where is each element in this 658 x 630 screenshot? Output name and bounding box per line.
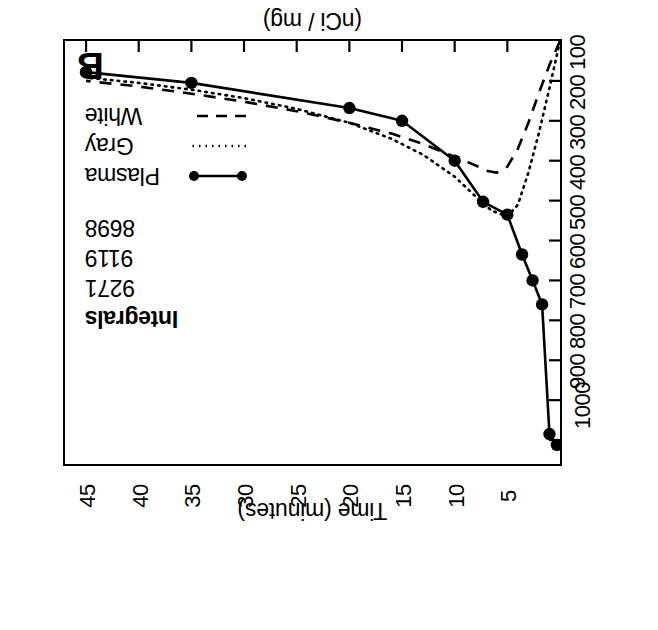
x-tick-label: 25 bbox=[286, 484, 312, 507]
x-tick-label: 5 bbox=[496, 490, 522, 502]
x-tick-label: 15 bbox=[391, 484, 417, 507]
legend-label-plasma: Plasma bbox=[85, 163, 177, 190]
y-tick-label: 800 bbox=[565, 314, 591, 349]
y-tick-label: 500 bbox=[565, 194, 591, 229]
plot-frame: B Integrals 9271 9119 8698 bbox=[63, 39, 562, 466]
y-axis-units: (nCi / mg) bbox=[263, 8, 362, 34]
y-tick-label: 200 bbox=[565, 75, 591, 110]
y-tick-label: 1000 bbox=[570, 382, 596, 429]
x-tick-label: 40 bbox=[128, 484, 154, 507]
legend: Integrals 9271 9119 8698 bbox=[85, 101, 325, 332]
y-tick-label: 600 bbox=[565, 234, 591, 269]
legend-row-integral-1: 9119 bbox=[85, 243, 325, 273]
legend-label-white: White bbox=[85, 103, 177, 130]
legend-row-plasma: Plasma bbox=[85, 161, 325, 191]
legend-header: Integrals bbox=[85, 305, 325, 332]
panel-letter: B bbox=[77, 47, 104, 84]
y-tick-label: 400 bbox=[565, 154, 591, 189]
legend-row-integral-0: 9271 bbox=[85, 273, 325, 303]
figure-root: Time (minutes) 51015202530354045 B Integ… bbox=[0, 0, 658, 630]
legend-label-gray: Gray bbox=[85, 133, 177, 160]
y-tick-label: 100 bbox=[565, 35, 591, 70]
legend-row-white: White bbox=[85, 101, 325, 131]
legend-swatch-gray bbox=[187, 137, 249, 155]
rotated-figure-canvas: Time (minutes) 51015202530354045 B Integ… bbox=[0, 0, 658, 630]
x-tick-label: 20 bbox=[338, 484, 364, 507]
legend-integral-plasma: 9271 bbox=[85, 275, 143, 302]
legend-row-gray: Gray bbox=[85, 131, 325, 161]
legend-row-integral-2: 8698 bbox=[85, 213, 325, 243]
legend-integral-white: 8698 bbox=[85, 215, 143, 242]
x-axis-title: Time (minutes) bbox=[238, 498, 388, 524]
legend-integral-gray: 9119 bbox=[85, 245, 143, 272]
y-tick-label: 300 bbox=[565, 115, 591, 150]
y-tick-label: 700 bbox=[565, 274, 591, 309]
legend-swatch-white bbox=[187, 107, 249, 125]
y-axis-units-wrap: (nCi / mg) bbox=[63, 7, 562, 34]
x-tick-label: 35 bbox=[180, 484, 206, 507]
x-tick-label: 45 bbox=[75, 484, 101, 507]
x-tick-label: 10 bbox=[444, 484, 470, 507]
legend-swatch-plasma bbox=[187, 167, 249, 185]
x-tick-label: 30 bbox=[233, 484, 259, 507]
